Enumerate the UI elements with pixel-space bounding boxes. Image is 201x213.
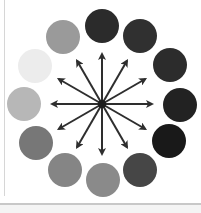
color-circle-10-oclock <box>18 49 52 83</box>
color-circle-7-oclock <box>48 153 82 187</box>
color-circle-12-oclock <box>85 9 119 43</box>
radial-arrows-color-wheel <box>0 0 201 213</box>
color-circle-2-oclock <box>153 48 187 82</box>
color-circle-5-oclock <box>123 153 157 187</box>
color-circle-3-oclock <box>163 88 197 122</box>
color-circle-9-oclock <box>7 87 41 121</box>
diagram-frame <box>0 0 201 213</box>
color-circle-6-oclock <box>86 163 120 197</box>
bottom-band <box>0 205 201 213</box>
color-circle-1-oclock <box>123 19 157 53</box>
center-hub <box>98 100 106 108</box>
color-circle-8-oclock <box>19 126 53 160</box>
color-circle-11-oclock <box>46 20 80 54</box>
color-circle-4-oclock <box>152 124 186 158</box>
